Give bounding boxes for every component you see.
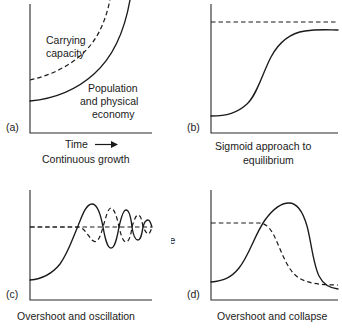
panel-c-caption: Overshoot and oscillation [17,310,135,322]
panel-b-tag: (b) [187,121,200,133]
panel-d-side-label: Unstable [171,234,176,246]
panel-b-caption-line2: equilibrium [243,154,294,166]
panel-a-caption: Continuous growth [42,153,130,165]
population-economy-label-line3: economy [92,108,135,120]
panel-c-overshoot-oscillation: (c) Overshoot and oscillation [0,168,171,335]
panel-d-tag: (d) [187,288,200,300]
panel-c-tag: (c) [6,288,18,300]
panel-b-caption-line1: Sigmoid approach to [215,140,311,152]
panel-a-xaxis-label: Time [65,138,88,150]
panel-d-caption: Overshoot and collapse [217,310,327,322]
panel-d-overshoot-collapse: Unstable (d) Overshoot and collapse [171,168,342,335]
carrying-capacity-label-line1: Carrying [46,34,86,46]
carrying-capacity-label-line2: capacity [46,47,85,59]
population-economy-label-line1: Population [88,82,138,94]
panel-a-continuous-growth: Carrying capacity Population and physica… [0,0,171,168]
time-arrow-icon [95,141,118,148]
panel-b-sigmoid-approach: Stable (b) Sigmoid approach to equilibri… [171,0,342,168]
four-growth-modes-figure: Carrying capacity Population and physica… [0,0,342,335]
population-economy-label-line2: and physical [80,95,138,107]
panel-a-tag: (a) [6,121,19,133]
